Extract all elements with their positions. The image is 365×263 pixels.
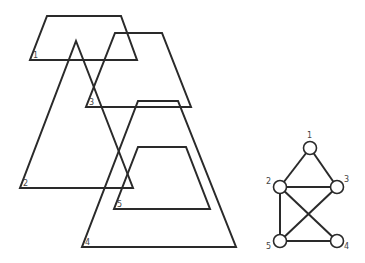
graph-node-4 — [331, 235, 344, 248]
trapezoid-outline — [82, 101, 236, 247]
graph-node-label: 1 — [307, 131, 312, 140]
graph-node-2 — [274, 181, 287, 194]
shape-trapezoid-1: 1 — [30, 16, 137, 60]
shape-trapezoid-3: 3 — [86, 33, 191, 107]
graph-node-label: 4 — [344, 242, 349, 251]
graph-node-1 — [304, 142, 317, 155]
graph-node-label: 2 — [266, 177, 271, 186]
graph-node-label: 5 — [266, 242, 271, 251]
shape-label: 2 — [23, 179, 28, 188]
shape-label: 4 — [85, 238, 90, 247]
diagram-canvas: 12345 12345 — [0, 0, 365, 263]
graph-node-label: 3 — [344, 175, 349, 184]
graph-group: 12345 — [266, 131, 349, 251]
shape-triangle-2: 2 — [20, 41, 133, 188]
graph-edge-1-2 — [280, 148, 310, 187]
shape-label: 1 — [33, 51, 38, 60]
shape-label: 3 — [89, 98, 94, 107]
shape-label: 5 — [117, 200, 122, 209]
graph-node-3 — [331, 181, 344, 194]
shape-trapezoid-4: 4 — [82, 101, 236, 247]
trapezoid-outline — [86, 33, 191, 107]
trapezoid-outline — [30, 16, 137, 60]
shapes-group: 12345 — [20, 16, 236, 247]
graph-node-5 — [274, 235, 287, 248]
triangle-outline — [20, 41, 133, 188]
